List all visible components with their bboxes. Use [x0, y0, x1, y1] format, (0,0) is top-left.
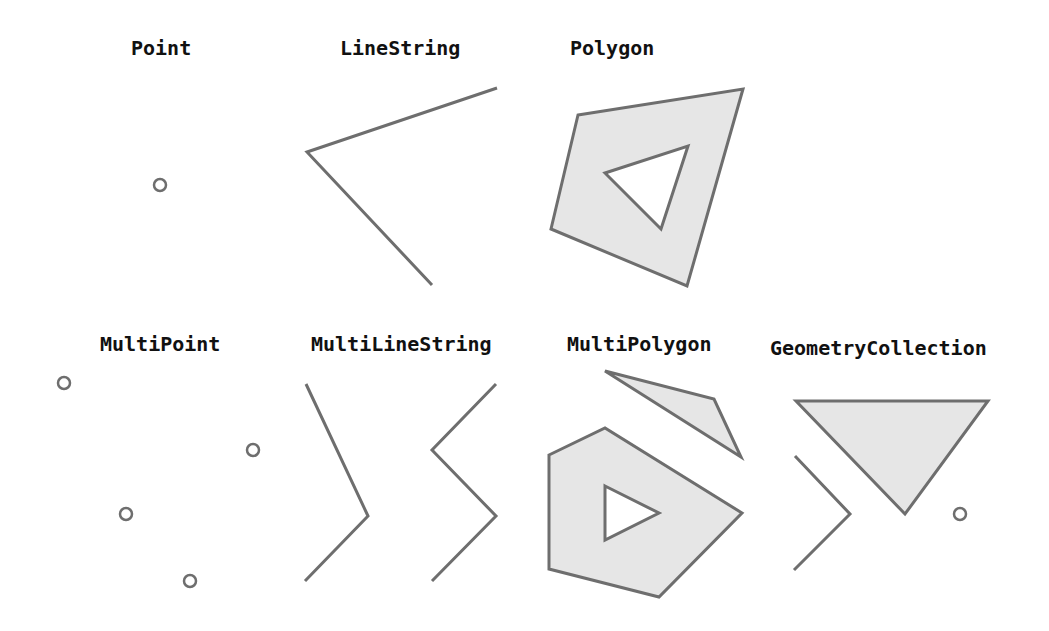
point-geometry [154, 179, 166, 191]
geometrycollection-geometry [794, 401, 988, 570]
multipolygon-geometry [549, 371, 742, 597]
linestring-geometry [307, 88, 497, 285]
geometry-diagram [0, 0, 1049, 631]
multilinestring-geometry [305, 384, 496, 581]
polygon-geometry [551, 89, 743, 286]
multipoint-geometry [58, 377, 259, 587]
